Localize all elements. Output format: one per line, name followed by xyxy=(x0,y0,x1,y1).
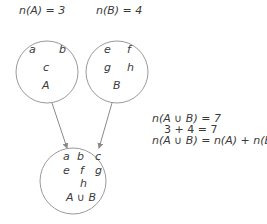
set-a-label: A xyxy=(42,80,50,92)
set-b-element: h xyxy=(127,62,134,74)
set-b-element: g xyxy=(104,62,111,74)
union-element: a xyxy=(63,151,70,163)
set-a-element: b xyxy=(59,44,66,56)
union-element: c xyxy=(95,151,101,163)
count-b-label: n(B) = 4 xyxy=(96,5,142,17)
set-b-element: e xyxy=(104,44,111,56)
set-b-element: f xyxy=(127,44,131,56)
union-element: e xyxy=(63,165,70,177)
equation-addition-rule: n(A ∪ B) = n(A) + n(B) xyxy=(152,135,267,146)
union-element: g xyxy=(95,165,102,177)
union-label: A ∪ B xyxy=(66,192,96,204)
set-b-circle xyxy=(86,41,148,103)
set-a-element: c xyxy=(43,62,49,74)
set-a-element: a xyxy=(29,44,36,56)
union-element: b xyxy=(77,151,84,163)
union-element: h xyxy=(80,178,87,190)
union-element: f xyxy=(80,165,84,177)
arrow-a-to-union xyxy=(52,103,67,148)
venn-diagram-canvas xyxy=(0,0,267,224)
set-b-label: B xyxy=(113,80,121,92)
count-a-label: n(A) = 3 xyxy=(19,5,65,17)
arrow-b-to-union xyxy=(99,103,112,148)
